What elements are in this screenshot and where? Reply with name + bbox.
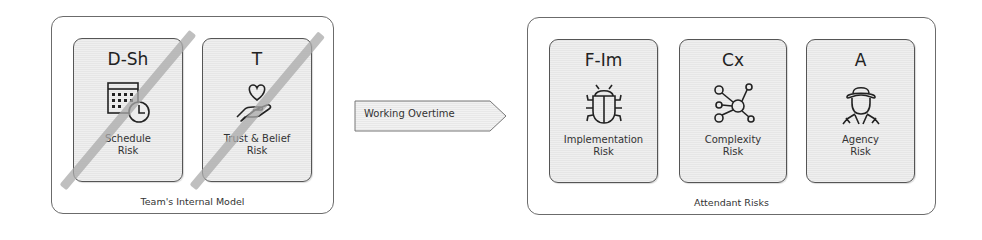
card-code: Cx xyxy=(680,50,786,70)
group-label: Attendant Risks xyxy=(528,197,935,208)
agency-risk-card: A Agency Risk xyxy=(806,39,915,183)
card-code: F-Im xyxy=(550,50,657,70)
detective-person-icon xyxy=(837,81,885,125)
card-code: A xyxy=(807,50,914,70)
bug-icon xyxy=(580,81,628,125)
complexity-risk-card: Cx Complexity Risk xyxy=(679,39,787,183)
network-nodes-icon xyxy=(709,81,757,125)
implementation-risk-card: F-Im Implementation Risk xyxy=(549,39,658,183)
card-label: Agency Risk xyxy=(807,134,914,158)
card-label: Complexity Risk xyxy=(680,134,786,158)
transition-label: Working Overtime xyxy=(364,108,455,119)
card-label: Implementation Risk xyxy=(550,134,657,158)
group-label: Team's Internal Model xyxy=(52,196,333,207)
